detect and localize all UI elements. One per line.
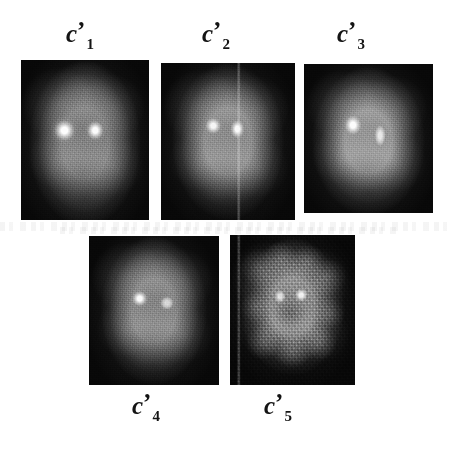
film-grain-noise xyxy=(21,60,149,220)
figure-root: c’1c’2c’3c’4c’5 xyxy=(0,0,454,454)
scan-panel-1 xyxy=(21,60,149,220)
label-subscript-index: 4 xyxy=(152,408,160,424)
label-subscript-index: 1 xyxy=(86,36,94,52)
label-prime-mark: ’ xyxy=(213,17,221,44)
label-prime-mark: ’ xyxy=(143,389,151,416)
panel-label-4: c’4 xyxy=(132,393,159,418)
label-symbol-c: c xyxy=(202,20,213,47)
film-grain-noise xyxy=(89,236,219,385)
scan-panel-3 xyxy=(304,64,433,213)
label-prime-mark: ’ xyxy=(348,17,356,44)
label-subscript-index: 3 xyxy=(357,36,365,52)
panel-label-3: c’3 xyxy=(337,21,364,46)
scan-band-bottom xyxy=(60,227,400,234)
label-subscript-index: 2 xyxy=(222,36,230,52)
label-symbol-c: c xyxy=(337,20,348,47)
scan-panel-5 xyxy=(230,235,355,385)
scan-panel-2 xyxy=(161,63,295,220)
label-prime-mark: ’ xyxy=(275,389,283,416)
label-symbol-c: c xyxy=(66,20,77,47)
label-symbol-c: c xyxy=(132,392,143,419)
panel-label-1: c’1 xyxy=(66,21,93,46)
film-grain-noise xyxy=(304,64,433,213)
scan-panel-4 xyxy=(89,236,219,385)
panel-label-2: c’2 xyxy=(202,21,229,46)
film-grain-noise xyxy=(230,235,355,385)
scan-band-top xyxy=(0,222,454,231)
label-subscript-index: 5 xyxy=(284,408,292,424)
label-symbol-c: c xyxy=(264,392,275,419)
film-grain-noise xyxy=(161,63,295,220)
label-prime-mark: ’ xyxy=(77,17,85,44)
panel-label-5: c’5 xyxy=(264,393,291,418)
